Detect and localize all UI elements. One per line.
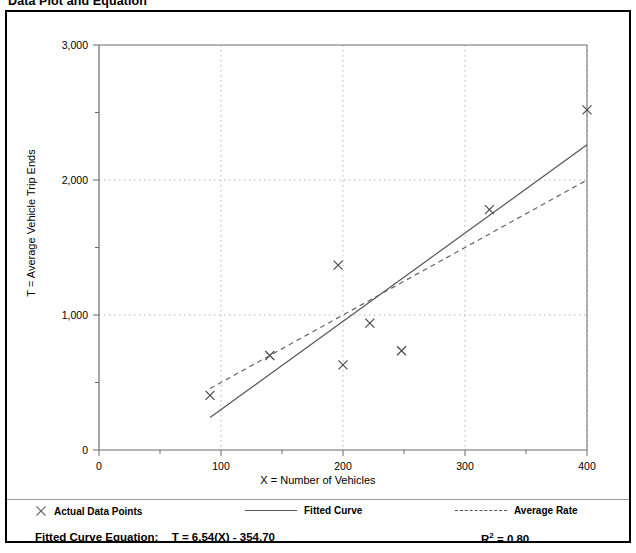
- svg-text:400: 400: [578, 460, 596, 472]
- page-title: Data Plot and Equation: [8, 0, 147, 8]
- equation-formula: T = 6.54(X) - 354.70: [172, 531, 275, 543]
- dashed-line-icon: [455, 510, 507, 511]
- svg-text:300: 300: [456, 460, 474, 472]
- y-axis-title: T = Average Vehicle Trip Ends: [25, 113, 37, 333]
- svg-text:1,000: 1,000: [62, 309, 88, 321]
- legend-item-actual-data-points: Actual Data Points: [35, 505, 142, 517]
- chart-legend: Actual Data Points Fitted Curve Average …: [7, 501, 629, 527]
- plot-area: 010020030040001,0002,0003,000 T = Averag…: [7, 12, 629, 499]
- legend-label-fitted-curve: Fitted Curve: [304, 505, 362, 516]
- solid-line-icon: [245, 510, 297, 511]
- equation-label: Fitted Curve Equation:: [35, 531, 158, 543]
- x-marker-icon: [35, 505, 47, 517]
- figure-container: 010020030040001,0002,0003,000 T = Averag…: [5, 10, 631, 543]
- legend-label-average-rate: Average Rate: [514, 505, 578, 516]
- chart-svg: 010020030040001,0002,0003,000: [7, 12, 629, 499]
- r2-exponent: 2: [489, 531, 493, 540]
- x-axis-title: X = Number of Vehicles: [7, 474, 629, 486]
- r-squared-value: R2 = 0.80: [481, 531, 529, 545]
- svg-text:100: 100: [212, 460, 230, 472]
- legend-item-average-rate: Average Rate: [455, 505, 578, 516]
- divider: [7, 499, 629, 500]
- svg-text:200: 200: [334, 460, 352, 472]
- svg-text:0: 0: [96, 460, 102, 472]
- r2-number: = 0.80: [497, 533, 529, 545]
- fitted-curve-equation: Fitted Curve Equation: T = 6.54(X) - 354…: [35, 531, 275, 543]
- equation-row: Fitted Curve Equation: T = 6.54(X) - 354…: [7, 528, 629, 553]
- legend-label-actual-data-points: Actual Data Points: [54, 506, 142, 517]
- svg-text:0: 0: [82, 444, 88, 456]
- svg-text:3,000: 3,000: [62, 39, 88, 51]
- legend-item-fitted-curve: Fitted Curve: [245, 505, 362, 516]
- svg-text:2,000: 2,000: [62, 174, 88, 186]
